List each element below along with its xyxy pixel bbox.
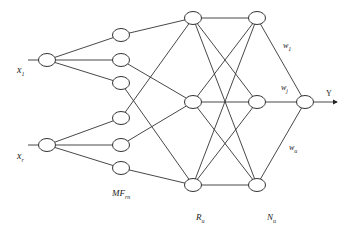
edge-mf4-r1	[121, 18, 193, 118]
node-x1	[39, 54, 56, 67]
node-n2	[249, 96, 266, 109]
node-mf6	[113, 162, 130, 175]
edge-n3-y	[257, 102, 305, 185]
edge-mf5-r2	[121, 102, 193, 145]
node-mf3	[113, 77, 130, 90]
edge-xr-mf6	[47, 145, 121, 168]
node-xr	[39, 139, 56, 152]
node-mf1	[113, 29, 130, 42]
edge-x1-mf3	[47, 60, 121, 83]
edge-mf6-r3	[121, 168, 193, 185]
node-mf5	[113, 139, 130, 152]
fuzzy-neural-network-diagram: x1xrMFrnRuNuYw1wjwu	[0, 0, 353, 235]
edge-mf3-r3	[121, 83, 193, 185]
connection-edges	[47, 18, 305, 185]
layer-labels: x1xrMFrnRuNuYw1wjwu	[16, 41, 332, 224]
node-n1	[249, 12, 266, 25]
weight-label-j: wj	[281, 83, 288, 94]
node-r2	[185, 96, 202, 109]
rule-layer-label: Ru	[195, 212, 205, 224]
edge-mf2-r2	[121, 60, 193, 102]
node-mf4	[113, 112, 130, 125]
input-label-xr: xr	[16, 150, 24, 163]
node-r3	[185, 179, 202, 192]
input-stubs	[28, 60, 337, 145]
weight-label-1: w1	[283, 41, 291, 52]
edge-xr-mf4	[47, 118, 121, 145]
node-y	[297, 96, 314, 109]
input-label-x1: x1	[16, 64, 24, 77]
node-mf2	[113, 54, 130, 67]
node-n3	[249, 179, 266, 192]
network-nodes	[39, 12, 314, 192]
norm-layer-label: Nu	[266, 212, 276, 224]
output-label: Y	[326, 89, 332, 98]
edge-x1-mf1	[47, 35, 121, 60]
weight-label-u: wu	[289, 143, 297, 154]
node-r1	[185, 12, 202, 25]
membership-layer-label: MFrn	[111, 188, 130, 200]
